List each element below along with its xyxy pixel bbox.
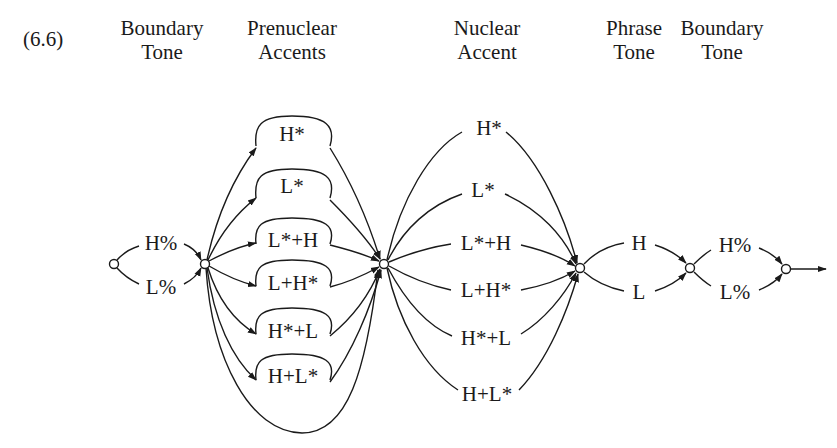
edge-L%-to-node1 bbox=[184, 268, 201, 284]
state-node-1 bbox=[201, 260, 210, 269]
state-node-4 bbox=[686, 264, 695, 273]
final-boundary-H%: H% bbox=[719, 234, 752, 256]
edge-nuc-H*+L-to-node3 bbox=[521, 273, 576, 334]
edge-node3-to-phrase-L bbox=[584, 272, 624, 291]
edge-final-L%-to-node5 bbox=[759, 274, 782, 290]
state-node-start bbox=[110, 260, 119, 269]
state-node-3 bbox=[576, 264, 585, 273]
edge-pre-L*-to-node2 bbox=[330, 200, 380, 259]
edge-node2-to-nuc-L*+H bbox=[389, 244, 451, 262]
prenuclear-L*+H: L*+H bbox=[268, 229, 318, 251]
state-node-5 bbox=[782, 265, 791, 274]
edge-pre-H*-to-node2 bbox=[330, 148, 380, 259]
edge-node2-to-nuc-H+L* bbox=[387, 268, 458, 390]
edge-node2-to-nuc-H* bbox=[387, 132, 462, 260]
edge-nuc-L*-to-node3 bbox=[505, 194, 576, 264]
nuclear-L+H*: L+H* bbox=[461, 279, 511, 301]
initial-boundary-L%: L% bbox=[146, 276, 176, 298]
nuclear-H*+L: H*+L bbox=[461, 327, 511, 349]
edge-start-to-H% bbox=[117, 246, 139, 260]
edge-pre-H+L*-to-node2 bbox=[330, 270, 381, 382]
phrase-tone-L: L bbox=[633, 281, 646, 303]
prenuclear-H*+L: H*+L bbox=[268, 320, 318, 342]
edge-nuc-H+L*-to-node3 bbox=[519, 274, 578, 390]
finite-state-network bbox=[0, 0, 837, 448]
edge-pre-L+H*-to-node2 bbox=[330, 267, 379, 287]
nuclear-H+L*: H+L* bbox=[462, 383, 512, 405]
edge-node3-to-phrase-H bbox=[584, 243, 624, 264]
edge-nuc-H*-to-node3 bbox=[506, 132, 577, 263]
nuclear-L*: L* bbox=[471, 179, 494, 201]
prenuclear-L*: L* bbox=[280, 175, 303, 197]
prenuclear-H*: H* bbox=[279, 123, 305, 145]
edge-nuc-L*+H-to-node3 bbox=[521, 245, 575, 266]
nuclear-H*: H* bbox=[476, 117, 502, 139]
edge-node4-to-final-L% bbox=[694, 272, 711, 286]
edge-phrase-H-to-node4 bbox=[655, 245, 686, 263]
final-boundary-L%: L% bbox=[720, 281, 750, 303]
edge-final-H%-to-node5 bbox=[759, 248, 782, 264]
edge-node1-to-pre-L+H* bbox=[209, 266, 256, 286]
edge-start-to-L% bbox=[117, 268, 139, 284]
edge-node4-to-final-H% bbox=[694, 250, 711, 264]
phrase-tone-H: H bbox=[631, 232, 646, 254]
edge-H%-to-node1 bbox=[184, 244, 201, 260]
state-node-2 bbox=[380, 260, 389, 269]
edge-node2-to-nuc-H*+L bbox=[388, 268, 452, 336]
edge-phrase-L-to-node4 bbox=[655, 273, 686, 291]
prenuclear-H+L*: H+L* bbox=[268, 365, 318, 387]
initial-boundary-H%: H% bbox=[145, 232, 178, 254]
prenuclear-L+H*: L+H* bbox=[268, 272, 318, 294]
nuclear-L*+H: L*+H bbox=[461, 232, 511, 254]
